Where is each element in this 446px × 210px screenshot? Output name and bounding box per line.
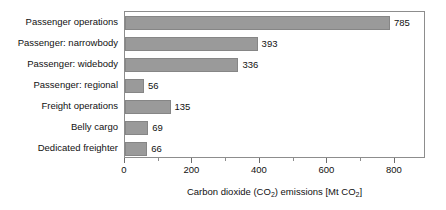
x-tick-minor <box>158 158 159 161</box>
bar-row: 393 <box>125 34 426 55</box>
bar <box>125 16 390 30</box>
bar-row: 785 <box>125 13 426 34</box>
x-tick-minor <box>293 158 294 161</box>
bar <box>125 58 238 72</box>
bar <box>125 121 148 135</box>
bar <box>125 142 147 156</box>
bar <box>125 37 258 51</box>
category-label: Belly cargo <box>0 121 118 132</box>
bar-value-label: 56 <box>148 78 159 93</box>
bar-row: 336 <box>125 55 426 76</box>
bar <box>125 79 144 93</box>
x-tick-label: 800 <box>386 164 402 176</box>
bar-row: 56 <box>125 76 426 97</box>
x-tick-major <box>326 158 327 163</box>
x-tick-label: 0 <box>121 164 126 176</box>
bar-value-label: 336 <box>242 57 258 72</box>
bar-value-label: 69 <box>152 120 163 135</box>
bar-row: 135 <box>125 97 426 118</box>
category-axis: Passenger operationsPassenger: narrowbod… <box>0 11 118 158</box>
bar-value-label: 135 <box>175 99 191 114</box>
x-tick-major <box>191 158 192 163</box>
category-label: Freight operations <box>0 100 118 111</box>
category-label: Passenger: regional <box>0 79 118 90</box>
x-tick-label: 400 <box>251 164 267 176</box>
x-axis-title: Carbon dioxide (CO2) emissions [Mt CO2] <box>124 186 425 198</box>
x-tick-major <box>124 158 125 163</box>
x-axis: 0200400600800 <box>124 158 425 188</box>
x-tick-minor <box>225 158 226 161</box>
axis-title-middle: ) emissions [Mt CO <box>275 186 356 197</box>
plot-area: 785393336561356966 <box>124 11 425 158</box>
category-label: Dedicated freighter <box>0 142 118 153</box>
bar-value-label: 785 <box>394 15 410 30</box>
x-tick-label: 200 <box>184 164 200 176</box>
x-tick-major <box>259 158 260 163</box>
axis-title-suffix: ] <box>359 186 362 197</box>
bar-chart-figure: Passenger operationsPassenger: narrowbod… <box>0 0 446 210</box>
category-label: Passenger operations <box>0 16 118 27</box>
x-tick-major <box>394 158 395 163</box>
bar-row: 69 <box>125 118 426 139</box>
bar-value-label: 66 <box>151 141 162 156</box>
category-label: Passenger: widebody <box>0 58 118 69</box>
bar-row: 66 <box>125 139 426 160</box>
x-tick-label: 600 <box>319 164 335 176</box>
category-label: Passenger: narrowbody <box>0 37 118 48</box>
bar-value-label: 393 <box>262 36 278 51</box>
axis-title-prefix: Carbon dioxide (CO <box>187 186 271 197</box>
axis-title-subscript-1: 2 <box>271 191 275 198</box>
axis-title-subscript-2: 2 <box>356 191 360 198</box>
bars-layer: 785393336561356966 <box>125 12 424 157</box>
x-tick-minor <box>360 158 361 161</box>
bar <box>125 100 171 114</box>
